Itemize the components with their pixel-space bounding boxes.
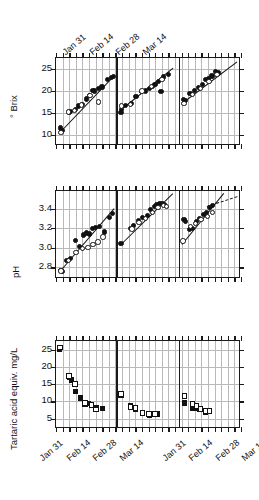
x-axis-tick — [96, 53, 97, 58]
x-axis-tick — [201, 336, 202, 341]
chart-brix: Jan 31Feb 14Feb 28Mar 14 ° Brix 10152025 — [0, 0, 259, 160]
x-axis-tick — [76, 144, 77, 149]
y-axis-tick — [51, 228, 56, 229]
gridline-vertical — [135, 191, 136, 277]
gridline-horizontal — [56, 384, 239, 385]
x-axis-tick — [63, 336, 64, 341]
x-axis-tick — [76, 277, 77, 282]
x-axis-tick — [168, 277, 169, 282]
gridline-vertical — [234, 191, 235, 277]
gridline-vertical — [195, 191, 196, 277]
data-point-open-circle — [96, 99, 101, 104]
x-axis-tick — [228, 186, 229, 191]
gridline-vertical — [149, 58, 150, 144]
x-axis-tick — [89, 336, 90, 341]
x-axis-tick — [129, 186, 130, 191]
x-axis-tick — [162, 144, 163, 149]
brix-plot-area — [55, 57, 240, 145]
x-axis-tick — [122, 277, 123, 282]
x-axis-tick — [241, 186, 242, 191]
x-axis-tick — [96, 186, 97, 191]
trendline — [59, 75, 114, 133]
x-axis-tick — [228, 144, 229, 149]
panel-divider — [179, 58, 181, 144]
x-axis-tick — [129, 336, 130, 341]
x-axis-tick — [175, 277, 176, 282]
y-axis-tick — [51, 113, 56, 114]
x-axis-tick — [215, 144, 216, 149]
x-axis-date-label: Mar 14 — [240, 438, 259, 463]
data-point-open-circle — [139, 88, 144, 93]
gridline-vertical — [69, 58, 70, 144]
x-axis-tick — [208, 186, 209, 191]
x-axis-tick — [195, 144, 196, 149]
x-axis-tick — [195, 277, 196, 282]
gridline-vertical — [63, 191, 64, 277]
gridline-vertical — [201, 191, 202, 277]
x-axis-tick — [142, 186, 143, 191]
y-tick-label: 15 — [41, 378, 52, 388]
x-axis-tick — [155, 53, 156, 58]
x-axis-tick — [135, 186, 136, 191]
data-point-open-square — [207, 408, 213, 414]
x-axis-tick — [89, 186, 90, 191]
x-axis-tick — [109, 53, 110, 58]
y-axis-tick — [51, 91, 56, 92]
x-axis-tick — [63, 144, 64, 149]
gridline-vertical — [162, 58, 163, 144]
gridline-vertical — [142, 58, 143, 144]
y-axis-tick — [239, 384, 244, 385]
x-axis-tick — [129, 277, 130, 282]
data-point-filled-circle — [158, 89, 163, 94]
y-axis-tick — [239, 228, 244, 229]
y-axis-tick — [51, 69, 56, 70]
ph-plot-area — [55, 190, 240, 278]
tartaric-plot-area — [55, 340, 240, 428]
y-tick-label: 10 — [41, 129, 52, 139]
y-axis-tick — [51, 248, 56, 249]
data-point-filled-square — [182, 400, 187, 405]
y-tick-label: 25 — [41, 344, 52, 354]
gridline-vertical — [228, 58, 229, 144]
x-axis-tick — [162, 53, 163, 58]
x-axis-tick — [102, 186, 103, 191]
data-point-open-circle — [58, 130, 63, 135]
x-axis-date-label: Mar 14 — [118, 438, 145, 463]
x-axis-tick — [201, 277, 202, 282]
y-axis-tick — [239, 267, 244, 268]
data-point-open-square — [152, 411, 158, 417]
panel-divider — [116, 341, 118, 427]
x-axis-tick — [89, 144, 90, 149]
data-point-open-square — [82, 400, 88, 406]
x-axis-tick — [215, 53, 216, 58]
x-axis-tick — [122, 144, 123, 149]
y-tick-label: 20 — [41, 361, 52, 371]
x-axis-tick — [56, 186, 57, 191]
y-tick-label: 10 — [41, 395, 52, 405]
gridline-horizontal — [56, 267, 239, 268]
data-point-open-circle — [87, 93, 92, 98]
x-axis-tick — [201, 53, 202, 58]
gridline-vertical — [228, 191, 229, 277]
x-axis-tick — [188, 336, 189, 341]
x-axis-tick — [168, 186, 169, 191]
y-axis-tick — [239, 419, 244, 420]
data-point-open-circle — [100, 234, 105, 239]
y-tick-label: 15 — [41, 107, 52, 117]
x-axis-tick — [149, 277, 150, 282]
x-axis-tick — [208, 53, 209, 58]
x-axis-tick — [228, 53, 229, 58]
x-axis-tick — [168, 144, 169, 149]
x-axis-tick — [102, 336, 103, 341]
gridline-horizontal — [56, 69, 239, 70]
x-axis-tick — [82, 53, 83, 58]
x-axis-tick — [76, 336, 77, 341]
x-axis-tick — [82, 144, 83, 149]
x-axis-tick — [122, 336, 123, 341]
gridline-horizontal — [56, 135, 239, 136]
y-axis-tick — [51, 384, 56, 385]
x-axis-tick — [82, 186, 83, 191]
data-point-open-circle — [66, 109, 71, 114]
data-point-open-circle — [80, 246, 85, 251]
y-axis-tick — [239, 135, 244, 136]
